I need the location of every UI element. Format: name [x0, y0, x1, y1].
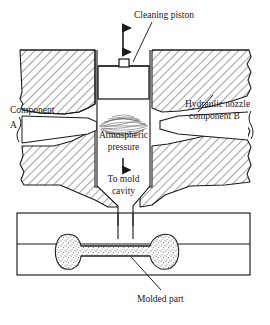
label-hydraulic-nozzle-line1: Hydraulic nozzle — [185, 99, 250, 110]
label-component-a-line1: Component — [10, 105, 54, 116]
label-to-mold-line1: To mold — [91, 174, 156, 185]
label-hydraulic-nozzle-line2: component B — [189, 111, 240, 122]
rim-mixing-head-diagram — [0, 0, 270, 325]
label-molded-part: Molded part — [137, 294, 184, 305]
label-atmospheric-line2: pressure — [91, 142, 156, 153]
label-component-a-line2: A — [10, 120, 17, 131]
label-cleaning-piston: Cleaning piston — [134, 10, 194, 21]
label-to-mold-line2: cavity — [91, 186, 156, 197]
label-atmospheric-line1: Atmospheric — [91, 130, 156, 141]
